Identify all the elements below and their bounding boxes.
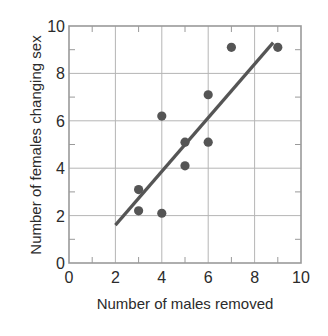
y-tick-label: 8: [56, 65, 65, 82]
data-point: [204, 138, 213, 147]
data-point: [204, 90, 213, 99]
data-point: [180, 138, 189, 147]
y-axis-tick-labels: 0246810: [47, 18, 65, 272]
data-point: [134, 185, 143, 194]
data-point: [157, 111, 166, 120]
x-tick-label: 2: [111, 269, 120, 286]
y-tick-label: 10: [47, 18, 65, 35]
x-tick-label: 4: [157, 269, 166, 286]
x-tick-label: 10: [292, 269, 310, 286]
y-tick-label: 6: [56, 113, 65, 130]
x-tick-label: 6: [204, 269, 213, 286]
data-point: [180, 161, 189, 170]
x-axis-tick-labels: 0246810: [65, 269, 310, 286]
data-point: [134, 206, 143, 215]
data-point: [273, 43, 282, 52]
y-tick-label: 2: [56, 208, 65, 225]
regression-line: [115, 43, 273, 225]
y-tick-label: 4: [56, 160, 65, 177]
y-tick-label: 0: [56, 255, 65, 272]
x-tick-label: 8: [250, 269, 259, 286]
x-tick-label: 0: [65, 269, 74, 286]
data-point: [227, 43, 236, 52]
scatter-chart: 0246810 0246810 Number of males removed …: [0, 0, 328, 336]
y-axis-title: Number of females changing sex: [27, 35, 44, 255]
data-point: [157, 209, 166, 218]
x-axis-title: Number of males removed: [97, 295, 274, 312]
data-series: [115, 43, 282, 225]
